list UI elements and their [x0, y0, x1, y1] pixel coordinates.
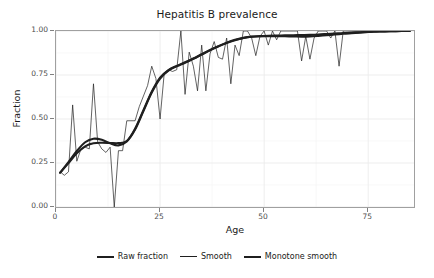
y-axis-tick-label: 0.75 [22, 69, 48, 78]
y-axis-tick-mark [50, 206, 54, 207]
legend-entry-label: Monotone smooth [265, 252, 337, 261]
legend-entry-raw-fraction[interactable]: Raw fraction [97, 252, 168, 261]
x-axis-tick-mark [263, 208, 264, 212]
series-line-smooth [60, 31, 410, 173]
x-axis-title: Age [55, 224, 415, 235]
x-axis-tick-mark [55, 208, 56, 212]
y-axis-tick-mark [50, 30, 54, 31]
plot-panel [55, 30, 415, 208]
legend-entry-label: Smooth [201, 252, 232, 261]
x-axis-tick-mark [367, 208, 368, 212]
plot-area-svg [56, 31, 414, 207]
legend-line-swatch [97, 256, 114, 258]
series-line-monotone-smooth [60, 31, 410, 173]
x-axis-tick-label: 25 [144, 212, 174, 221]
y-axis-tick-label: 1.00 [22, 25, 48, 34]
y-axis-tick-mark [50, 74, 54, 75]
y-axis-title: Fraction [11, 64, 22, 154]
legend-line-swatch [244, 256, 261, 258]
x-axis-tick-label: 75 [352, 212, 382, 221]
y-axis-tick-label: 0.25 [22, 157, 48, 166]
chart-title: Hepatitis B prevalence [0, 8, 434, 20]
gridlines-major [56, 31, 414, 207]
x-axis-tick-label: 0 [40, 212, 70, 221]
legend-entry-smooth[interactable]: Smooth [180, 252, 232, 261]
chart-legend: Raw fractionSmoothMonotone smooth [0, 252, 434, 261]
y-axis-tick-label: 0.50 [22, 113, 48, 122]
legend-line-swatch [180, 256, 197, 257]
chart-figure: Hepatitis B prevalence 0.000.250.500.751… [0, 0, 434, 278]
x-axis-tick-label: 50 [248, 212, 278, 221]
y-axis-tick-mark [50, 118, 54, 119]
legend-entry-label: Raw fraction [118, 252, 168, 261]
legend-entry-monotone-smooth[interactable]: Monotone smooth [244, 252, 337, 261]
y-axis-tick-mark [50, 162, 54, 163]
y-axis-tick-labels: 0.000.250.500.751.00 [18, 0, 48, 278]
y-axis-tick-label: 0.00 [22, 201, 48, 210]
x-axis-tick-mark [159, 208, 160, 212]
